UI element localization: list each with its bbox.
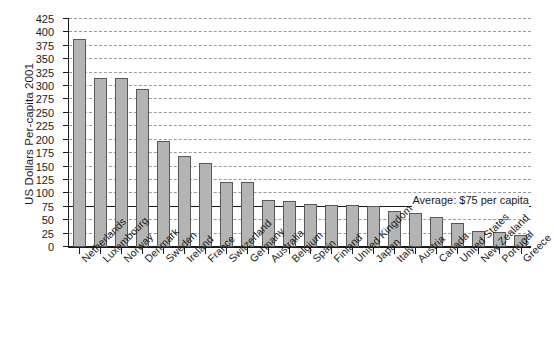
y-axis-tick-label: 250	[36, 107, 54, 119]
y-axis-tick-label: 200	[36, 134, 54, 146]
bar-slot	[468, 19, 489, 247]
y-axis-tick-label: 400	[36, 26, 54, 38]
bar-slot	[69, 19, 90, 247]
x-axis-labels: NetherlandsLuxembourgNorwayDenmarkSweden…	[68, 254, 531, 340]
y-axis-tick-label: 175	[36, 147, 54, 159]
y-axis-tick-label: 275	[36, 93, 54, 105]
y-axis-tick-label: 0	[48, 241, 54, 253]
y-axis-tick-label: 350	[36, 53, 54, 65]
y-axis-tick-label: 75	[42, 201, 54, 213]
bar-slot	[174, 19, 195, 247]
bar-slot	[132, 19, 153, 247]
bar-slot	[363, 19, 384, 247]
y-axis-tick-label: 300	[36, 80, 54, 92]
y-axis-tick-label: 50	[42, 214, 54, 226]
bar-slot	[216, 19, 237, 247]
bar-slot	[342, 19, 363, 247]
y-axis-tick-label: 100	[36, 187, 54, 199]
bar-slot	[300, 19, 321, 247]
bar-slot	[426, 19, 447, 247]
y-axis-tick-label: 325	[36, 67, 54, 79]
bar-slot	[195, 19, 216, 247]
bar-slot	[90, 19, 111, 247]
bar-slot	[111, 19, 132, 247]
y-axis-tick-label: 225	[36, 120, 54, 132]
y-axis-tick-label: 125	[36, 174, 54, 186]
y-axis-tick-label: 25	[42, 228, 54, 240]
plot-area: 0255075100125150175200225250275300325350…	[68, 19, 531, 248]
bar[interactable]	[73, 39, 87, 247]
bar-slot	[279, 19, 300, 247]
bar-slot	[321, 19, 342, 247]
bar[interactable]	[94, 78, 108, 247]
y-axis-tick-label: 150	[36, 161, 54, 173]
bar[interactable]	[409, 213, 423, 247]
bar-series	[69, 19, 531, 247]
y-axis-title: US Dollars Per-capita 2001	[23, 19, 35, 249]
bar-slot	[237, 19, 258, 247]
y-axis-tick-label: 375	[36, 40, 54, 52]
bar-slot	[153, 19, 174, 247]
bar-slot	[258, 19, 279, 247]
y-axis-tick-label: 425	[36, 13, 54, 25]
bar-slot	[447, 19, 468, 247]
